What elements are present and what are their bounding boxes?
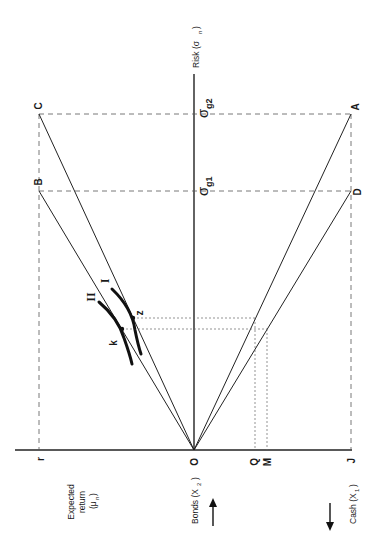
label-C: C [33,102,44,109]
ray-o-c [39,114,194,450]
svg-text:Cash (X: Cash (X [348,493,358,524]
svg-text:): ) [191,26,201,29]
ray-o-a [194,114,351,450]
portfolio-diagram: C B A D r O Q M J k z I II σ g2 σ g1 Ris… [0,0,381,547]
svg-text:Bonds (X: Bonds (X [190,489,200,524]
svg-text:): ) [190,477,200,480]
svg-text:): ) [348,484,358,487]
label-curve-I: I [98,278,112,283]
cash-axis-label: Cash (X 1 ) [348,484,360,524]
sigma-g2-label: σ g2 [194,98,214,118]
label-J: J [346,458,357,464]
label-B: B [33,178,44,185]
svg-text:Expected: Expected [66,484,76,520]
label-M: M [262,458,273,466]
svg-text:return: return [77,491,87,513]
indifference-curve-II [99,302,132,364]
svg-text:n: n [94,497,100,500]
risk-axis-label: Risk (σ n ) [191,26,203,68]
cash-arrow-icon [326,503,334,531]
svg-text:1: 1 [354,488,360,492]
svg-text:): ) [88,493,98,496]
label-k: k [108,340,119,346]
svg-text:g1: g1 [204,176,214,187]
label-O: O [189,458,200,466]
point-k [120,327,124,331]
label-curve-II: II [84,292,98,302]
svg-text:g2: g2 [204,98,214,109]
label-A: A [350,103,361,110]
svg-text:Risk (σ: Risk (σ [191,40,201,68]
ray-o-d [194,191,351,450]
bonds-axis-label: Bonds (X 2 ) [190,477,202,524]
label-Q: Q [249,458,260,466]
label-D: D [352,188,363,195]
sigma-g1-label: σ g1 [194,176,214,196]
expected-return-label: Expected return (μ n ) [66,484,100,520]
label-r: r [35,457,46,461]
bonds-arrow-icon [208,498,226,526]
svg-text:(μ: (μ [88,501,98,509]
svg-text:n: n [197,31,203,34]
svg-text:2: 2 [196,482,202,486]
label-z: z [134,311,145,316]
